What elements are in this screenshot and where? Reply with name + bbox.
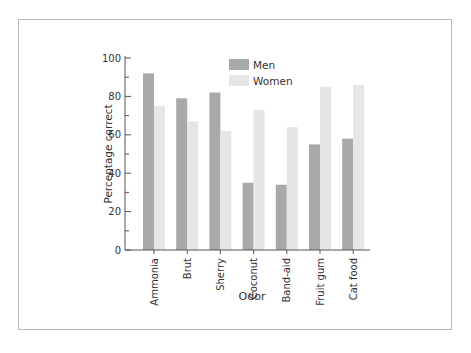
x-tick-label: Ammonia: [149, 258, 160, 306]
x-tick-label: Band-aid: [281, 258, 292, 303]
bar-men-coconut: [243, 183, 254, 250]
bar-men-band-aid: [276, 185, 287, 250]
bar-men-fruit-gum: [309, 144, 320, 250]
x-tick-label: Cat food: [348, 258, 359, 300]
x-tick-label: Brut: [182, 258, 193, 279]
bar-women-brut: [187, 121, 198, 250]
bars-group: [143, 73, 364, 250]
legend-swatch-men: [229, 59, 249, 70]
bar-men-sherry: [209, 93, 220, 250]
y-axis-label: Percentage correct: [102, 104, 114, 203]
bar-women-fruit-gum: [320, 87, 331, 250]
y-tick-label: 80: [108, 91, 121, 102]
x-tick-label: Sherry: [215, 258, 226, 291]
bar-men-brut: [176, 98, 187, 250]
bar-women-cat-food: [353, 85, 364, 250]
bar-women-ammonia: [154, 106, 165, 250]
legend-label-women: Women: [253, 75, 293, 87]
legend-label-men: Men: [253, 59, 275, 71]
y-tick-label: 100: [102, 53, 121, 64]
bar-women-coconut: [254, 110, 265, 250]
y-tick-label: 20: [108, 206, 121, 217]
x-tick-label: Fruit gum: [315, 258, 326, 306]
bar-men-cat-food: [342, 139, 353, 250]
x-axis-label: Odor: [239, 290, 266, 303]
legend-swatch-women: [229, 75, 249, 86]
bar-chart: AmmoniaBrutSherryCoconutBand-aidFruit gu…: [0, 0, 471, 353]
bar-women-band-aid: [287, 127, 298, 250]
bar-men-ammonia: [143, 73, 154, 250]
bar-women-sherry: [220, 131, 231, 250]
legend: MenWomen: [229, 59, 293, 87]
y-tick-label: 0: [115, 245, 121, 256]
